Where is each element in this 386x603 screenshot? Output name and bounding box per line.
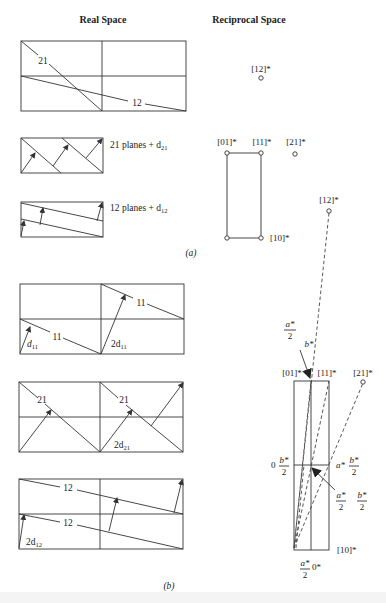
point-label-21-b: [21]* bbox=[353, 368, 373, 378]
b-half-num-mid: b* bbox=[358, 490, 368, 500]
reciprocal-space-header: Reciprocal Space bbox=[212, 14, 286, 25]
b-half-num-right: b* bbox=[350, 455, 360, 465]
d11-label: d11 bbox=[27, 339, 38, 350]
real-panel-b3: 12 12 2d12 bbox=[19, 479, 183, 549]
plane-label-12-lower: 12 bbox=[63, 518, 73, 528]
reciprocal-lattice-b: a* 2 b* [01]* [11]* [21]* 0 b* 2 a* b* 2… bbox=[271, 213, 373, 580]
caption-b: (b) bbox=[163, 581, 174, 592]
point-label-11: [11]* bbox=[252, 137, 272, 147]
diffraction-diagram: Real Space Reciprocal Space 21 12 21 pla… bbox=[0, 0, 386, 603]
b-star-label: b* bbox=[305, 339, 315, 349]
2d11-label: 2d11 bbox=[111, 339, 127, 350]
a-half-den-mid: 2 bbox=[339, 502, 344, 512]
caption-a: (a) bbox=[185, 248, 196, 259]
point-label-12-top: [12]* bbox=[251, 64, 271, 74]
b-half-den-right: 2 bbox=[352, 467, 357, 477]
a-half-num-mid: a* bbox=[337, 490, 347, 500]
point-label-11-b: [11]* bbox=[317, 368, 337, 378]
point-label-10: [10]* bbox=[270, 233, 290, 243]
real-panel-a1: 21 12 bbox=[21, 41, 186, 111]
reciprocal-point-21-b bbox=[361, 380, 365, 384]
a-half-den-bottom: 2 bbox=[303, 570, 308, 580]
2d21-label: 2d21 bbox=[114, 440, 130, 451]
plane-label-11-lower: 11 bbox=[52, 332, 61, 342]
a-star-half-den: 2 bbox=[288, 331, 293, 341]
reciprocal-point-21 bbox=[293, 152, 297, 156]
b-half-den-left: 2 bbox=[282, 467, 287, 477]
plane-label-12: 12 bbox=[132, 98, 142, 108]
plane-label-21-right: 21 bbox=[119, 395, 129, 405]
planes-21-label: 21 planes + d21 bbox=[110, 140, 168, 151]
point-label-01: [01]* bbox=[217, 137, 237, 147]
plane-label-21-left: 21 bbox=[37, 395, 47, 405]
plane-label-21: 21 bbox=[38, 56, 48, 66]
real-panel-b2: 21 21 2d21 bbox=[19, 382, 183, 452]
reciprocal-lattice-a: [12]* [01]* [11]* [21]* [12]* [10]* bbox=[217, 64, 339, 243]
reciprocal-point-01 bbox=[225, 151, 229, 155]
zero-label: 0 bbox=[271, 460, 276, 470]
real-space-header: Real Space bbox=[80, 14, 128, 25]
point-label-10-b: [10]* bbox=[337, 545, 357, 555]
b-half-den-mid: 2 bbox=[360, 502, 365, 512]
real-panel-b1: 11 11 d11 2d11 bbox=[20, 284, 184, 354]
point-label-21: [21]* bbox=[286, 137, 306, 147]
a-star-half-num: a* bbox=[286, 319, 296, 329]
real-panel-a2: 21 planes + d21 bbox=[21, 138, 168, 173]
reciprocal-point-origin bbox=[225, 236, 229, 240]
a-half-num-bottom: a* bbox=[301, 558, 311, 568]
a-star-label: a* bbox=[336, 460, 346, 470]
zero-star-label: 0* bbox=[312, 562, 322, 572]
reciprocal-point-11 bbox=[259, 151, 263, 155]
bottom-strip bbox=[0, 592, 386, 603]
point-label-12: [12]* bbox=[319, 195, 339, 205]
reciprocal-point-10 bbox=[259, 236, 263, 240]
b-half-num-left: b* bbox=[280, 455, 290, 465]
2d12-label: 2d12 bbox=[26, 537, 42, 548]
real-panel-a3: 12 planes + d12 bbox=[21, 202, 168, 237]
planes-12-label: 12 planes + d12 bbox=[110, 203, 168, 214]
reciprocal-point-12-top bbox=[259, 76, 263, 80]
plane-label-11-upper: 11 bbox=[136, 298, 145, 308]
point-label-01-b: [01]* bbox=[282, 368, 302, 378]
reciprocal-point-12 bbox=[327, 209, 331, 213]
plane-label-12-upper: 12 bbox=[63, 483, 73, 493]
